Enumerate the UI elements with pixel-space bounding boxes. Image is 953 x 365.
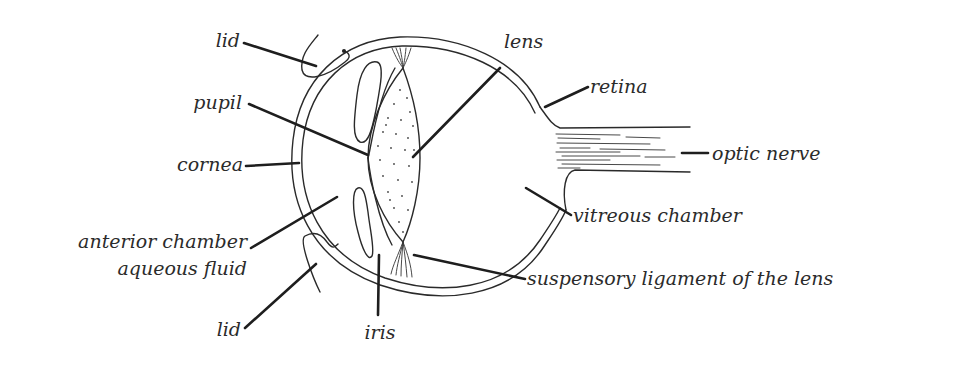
lens-drawing <box>368 68 420 242</box>
leader-cornea <box>246 163 299 166</box>
label-lid-top: lid <box>216 29 240 51</box>
leader-lid-top <box>244 43 316 66</box>
iris-lower-drawing <box>354 188 373 258</box>
leader-suspensory-ligament <box>414 255 525 279</box>
label-iris: iris <box>365 321 396 343</box>
iris-upper-drawing <box>354 62 381 143</box>
leader-retina <box>545 87 588 107</box>
label-lid-bottom: lid <box>217 318 241 340</box>
label-vitreous-chamber: vitreous chamber <box>573 204 744 226</box>
label-retina: retina <box>590 75 648 97</box>
leader-pupil <box>249 104 368 155</box>
label-cornea: cornea <box>177 153 243 175</box>
optic-nerve-drawing <box>540 107 690 210</box>
label-aqueous-fluid: aqueous fluid <box>117 257 247 279</box>
leader-lens <box>413 68 500 157</box>
leader-iris <box>378 255 379 315</box>
leader-lid-bottom <box>245 264 316 328</box>
lower-lid-drawing <box>303 234 338 292</box>
upper-lid-drawing <box>302 35 349 77</box>
label-optic-nerve: optic nerve <box>712 142 821 164</box>
eye-cross-section-diagram: lid pupil cornea anterior chamber aqueou… <box>0 0 953 365</box>
label-suspensory-ligament: suspensory ligament of the lens <box>527 267 833 289</box>
label-anterior-chamber: anterior chamber <box>78 230 249 252</box>
leader-anterior-chamber <box>251 197 337 248</box>
ligament-top-fibers <box>392 48 411 68</box>
label-pupil: pupil <box>193 91 242 113</box>
ligament-bottom-fibers <box>391 242 412 277</box>
label-lens: lens <box>504 30 544 52</box>
